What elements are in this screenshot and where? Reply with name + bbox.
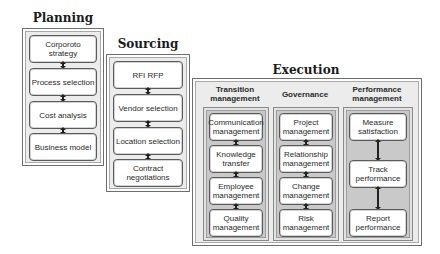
step-relationship-management: Relationship management [279,145,333,173]
step-vendor-selection: Vendor selection [113,94,183,122]
column-heading-performance-management: Performance management [343,85,411,103]
step-quality-management: Quality management [209,209,263,237]
step-rfi-rfp: RFI RFP [113,61,183,89]
step-contract-negotiations: Contract negotiations [113,159,183,187]
step-measure-satisfaction: Measure satisfaction [349,113,407,141]
transition-management-panel: Communication management Knowledge trans… [203,107,269,241]
performance-management-panel: Measure satisfaction Track performance R… [343,107,413,241]
step-track-performance: Track performance [349,160,407,188]
step-knowledge-transfer: Knowledge transfer [209,145,263,173]
step-report-performance: Report performance [349,209,407,237]
column-heading-governance: Governance [273,90,337,99]
execution-title: Execution [192,63,420,77]
step-change-management: Change management [279,177,333,205]
planning-title: Planning [22,11,104,25]
step-communication-management: Communication management [209,113,263,141]
planning-phase: Corporoto strategy Process selection Cos… [22,28,104,166]
step-employee-management: Employee management [209,177,263,205]
column-heading-transition-management: Transition management [203,85,267,103]
step-cost-analysis: Cost analysis [29,101,97,129]
step-project-management: Project management [279,113,333,141]
governance-panel: Project management Relationship manageme… [273,107,339,241]
step-process-selection: Process selection [29,68,97,96]
execution-phase: Transition management Communication mana… [192,78,422,246]
step-risk-management: Risk management [279,209,333,237]
bidirectional-arrow-icon [377,187,379,209]
step-corporate-strategy: Corporoto strategy [29,35,97,63]
bidirectional-arrow-icon [377,140,379,160]
step-location-selection: Location selection [113,127,183,155]
sourcing-title: Sourcing [106,37,190,51]
step-business-model: Business model [29,133,97,161]
sourcing-phase: RFI RFP Vendor selection Location select… [106,54,190,192]
